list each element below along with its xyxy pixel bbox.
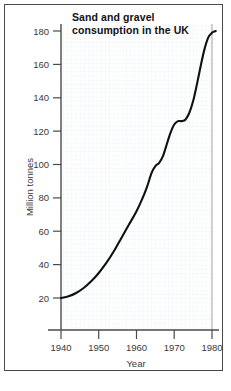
line-chart: 180 160 140 120 100 80 60 40 20 1940 195…	[0, 0, 231, 391]
x-tick-label-1980: 1980	[201, 342, 222, 353]
x-tick-label-1970: 1970	[164, 342, 185, 353]
y-tick-label-100: 100	[33, 159, 49, 170]
chart-title: Sand and gravel consumption in the UK	[72, 11, 208, 37]
chart-figure: 180 160 140 120 100 80 60 40 20 1940 195…	[0, 0, 231, 391]
y-axis-title: Million tonnes	[24, 158, 35, 216]
y-axis-ticks	[53, 31, 61, 298]
x-axis-title: Year	[126, 358, 145, 369]
y-tick-label-120: 120	[33, 126, 49, 137]
plot-grid	[61, 24, 212, 330]
x-tick-label-1940: 1940	[50, 342, 71, 353]
y-tick-label-140: 140	[33, 92, 49, 103]
x-tick-label-1960: 1960	[126, 342, 147, 353]
y-tick-label-180: 180	[33, 26, 49, 37]
x-axis-ticks	[61, 330, 212, 339]
y-tick-label-160: 160	[33, 59, 49, 70]
y-tick-label-40: 40	[38, 259, 49, 270]
y-tick-label-60: 60	[38, 226, 49, 237]
y-tick-label-80: 80	[38, 192, 49, 203]
chart-title-line-2: consumption in the UK	[72, 24, 208, 37]
chart-title-line-1: Sand and gravel	[72, 11, 208, 24]
x-tick-label-1950: 1950	[88, 342, 109, 353]
y-tick-label-20: 20	[38, 293, 49, 304]
